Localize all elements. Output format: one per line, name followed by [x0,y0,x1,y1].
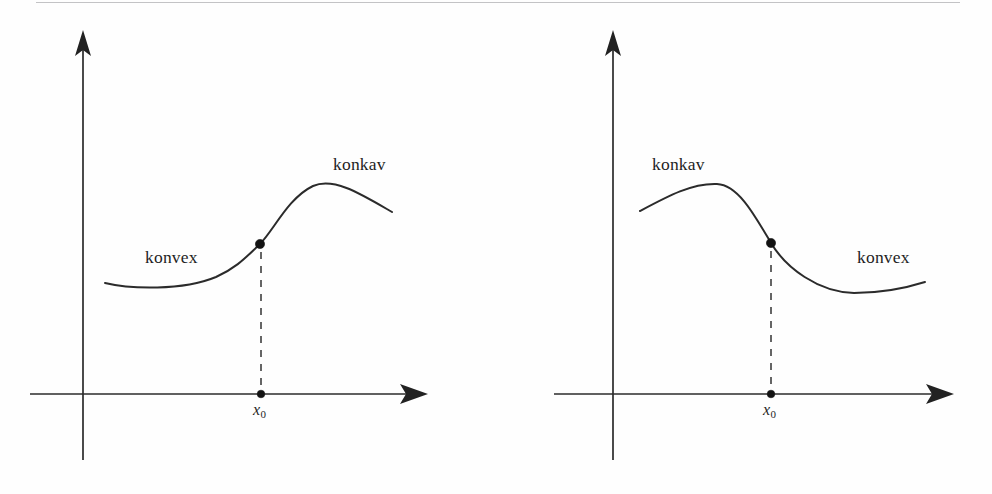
inflection-point-left [255,239,264,248]
label-konvex-left: konvex [145,249,198,267]
x0-axis-dot-right [767,390,775,398]
x0-axis-label-left: x0 [253,402,266,420]
page-canvas: konvex konkav x0 [0,0,992,494]
x0-subscript-right: 0 [771,408,777,420]
curve-left [105,184,392,288]
x0-axis-dot-left [257,390,265,398]
label-konvex-right: konvex [857,249,910,267]
x-axis-left [30,384,428,404]
figure-pair: konvex konkav x0 [0,0,992,494]
y-axis-right [605,30,621,460]
curve-right [640,184,925,293]
inflection-point-right [766,238,775,247]
y-axis-left [75,30,91,460]
x0-variable-right: x [763,401,770,418]
x0-axis-label-right: x0 [763,402,776,420]
x0-variable-left: x [253,401,260,418]
figure-right-concave-convex: konkav konvex x0 [496,0,992,494]
x0-subscript-left: 0 [261,408,267,420]
x-axis-right [554,384,954,404]
figure-left-convex-concave: konvex konkav x0 [0,0,496,494]
label-konkav-right: konkav [652,156,705,174]
label-konkav-left: konkav [333,156,386,174]
